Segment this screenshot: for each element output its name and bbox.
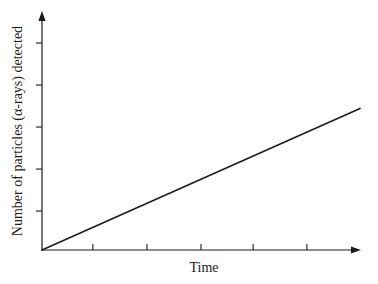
alpha-ray-detection-graph: Number of particles (α-rays) detected Ti… — [0, 0, 378, 284]
data-line — [42, 108, 360, 250]
x-axis-arrowhead-icon — [351, 246, 361, 253]
chart-canvas: Number of particles (α-rays) detected Ti… — [0, 0, 378, 284]
axes-layer — [36, 11, 361, 254]
series-layer — [42, 108, 360, 250]
y-axis-label: Number of particles (α-rays) detected — [10, 26, 26, 236]
x-axis-label: Time — [189, 260, 218, 275]
y-axis-arrowhead-icon — [38, 11, 45, 21]
